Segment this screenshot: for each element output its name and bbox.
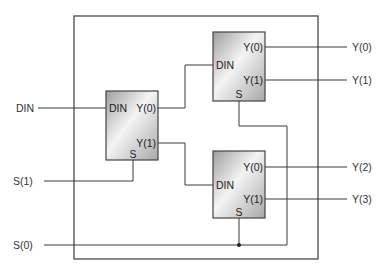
pin-y1: Y(1) bbox=[136, 137, 156, 149]
pin-y1: Y(1) bbox=[243, 193, 263, 205]
wires bbox=[38, 47, 347, 245]
wire-left-y0 bbox=[158, 65, 213, 108]
pin-din: DIN bbox=[109, 102, 127, 114]
demux-block-left: DIN Y(0) Y(1) S bbox=[106, 91, 158, 160]
input-label-s1: S(1) bbox=[13, 175, 33, 187]
input-label-s0: S(0) bbox=[13, 239, 33, 251]
pin-s: S bbox=[235, 206, 242, 218]
wire-left-y1 bbox=[158, 143, 213, 185]
demux-block-bottom-right: DIN Y(0) Y(1) S bbox=[213, 151, 265, 218]
output-label-y0: Y(0) bbox=[352, 41, 372, 53]
demux-block-top-right: DIN Y(0) Y(1) S bbox=[213, 32, 265, 101]
pin-din: DIN bbox=[216, 59, 234, 71]
output-label-y2: Y(2) bbox=[352, 161, 372, 173]
pin-din: DIN bbox=[216, 179, 234, 191]
pin-y0: Y(0) bbox=[243, 161, 263, 173]
demux-diagram: DIN Y(0) Y(1) S DIN Y(0) Y(1) S DIN Y(0)… bbox=[0, 0, 385, 268]
wire-s1-input bbox=[44, 160, 133, 181]
junction-dot bbox=[237, 243, 241, 247]
input-label-din: DIN bbox=[16, 102, 34, 114]
pin-y0: Y(0) bbox=[136, 102, 156, 114]
pin-s: S bbox=[235, 88, 242, 100]
output-label-y1: Y(1) bbox=[352, 74, 372, 86]
pin-s: S bbox=[129, 148, 136, 160]
output-label-y3: Y(3) bbox=[352, 193, 372, 205]
pin-y0: Y(0) bbox=[243, 41, 263, 53]
pin-y1: Y(1) bbox=[243, 74, 263, 86]
